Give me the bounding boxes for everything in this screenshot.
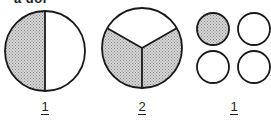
fraction-label-2: 2 — [132, 100, 152, 115]
circle-halves — [5, 11, 85, 91]
circle-thirds — [102, 8, 183, 88]
numerator: 1 — [230, 100, 238, 115]
numerator: 2 — [138, 100, 146, 115]
numerator: 1 — [41, 100, 49, 115]
fraction-label-3: 1 — [224, 100, 244, 115]
fraction-label-1: 1 — [35, 100, 55, 115]
four-circles — [197, 13, 270, 83]
